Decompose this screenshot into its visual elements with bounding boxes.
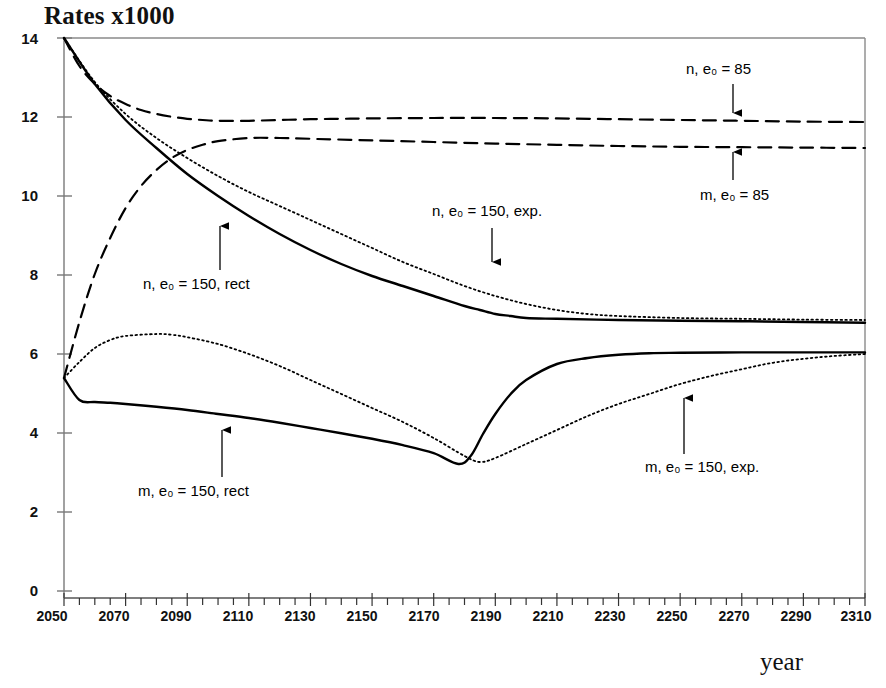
x-axis-minor-ticks bbox=[64, 593, 865, 606]
series-m-e0-85 bbox=[64, 138, 865, 378]
chart-figure: Rates x1000 year 14 12 10 8 6 4 2 0 2050… bbox=[0, 0, 886, 688]
series-n-e0-150-exp- bbox=[64, 38, 865, 320]
series-group bbox=[64, 38, 865, 464]
chart-canvas bbox=[0, 0, 886, 688]
series-n-e0-150-rect bbox=[64, 38, 865, 323]
series-n-e0-85 bbox=[64, 38, 865, 122]
